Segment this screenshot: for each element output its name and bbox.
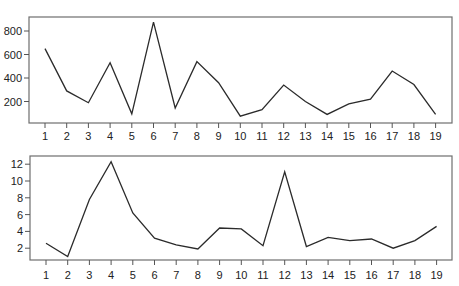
x-tick-label: 16 xyxy=(365,269,377,281)
x-tick-label: 9 xyxy=(217,269,223,281)
x-tick-label: 9 xyxy=(216,130,222,142)
x-tick-label: 4 xyxy=(108,269,114,281)
x-tick-label: 3 xyxy=(86,269,92,281)
x-tick-label: 11 xyxy=(256,130,267,142)
x-tick-label: 8 xyxy=(194,130,200,142)
x-tick-label: 15 xyxy=(344,269,356,281)
y-tick-label: 8 xyxy=(17,192,23,204)
y-tick-label: 4 xyxy=(17,225,23,237)
y-tick-label: 600 xyxy=(4,49,22,61)
x-tick-label: 2 xyxy=(65,269,71,281)
x-tick-label: 4 xyxy=(107,130,113,142)
y-tick-label: 800 xyxy=(4,25,22,37)
data-series-line xyxy=(46,162,437,257)
x-tick-label: 13 xyxy=(300,269,312,281)
x-tick-label: 11 xyxy=(257,269,268,281)
line-charts-svg: 2004006008001234567891011121314151617181… xyxy=(0,0,459,286)
x-tick-label: 2 xyxy=(64,130,70,142)
x-tick-label: 19 xyxy=(429,130,441,142)
plot-frame xyxy=(29,17,452,123)
x-tick-label: 12 xyxy=(279,269,291,281)
x-tick-label: 18 xyxy=(408,130,420,142)
y-tick-label: 12 xyxy=(11,158,23,170)
x-tick-label: 14 xyxy=(321,130,333,142)
x-tick-label: 6 xyxy=(151,269,157,281)
x-tick-label: 5 xyxy=(129,130,135,142)
x-tick-label: 12 xyxy=(278,130,290,142)
y-tick-label: 10 xyxy=(11,175,23,187)
x-tick-label: 1 xyxy=(43,269,49,281)
x-tick-label: 13 xyxy=(299,130,311,142)
x-tick-label: 17 xyxy=(387,269,399,281)
y-tick-label: 400 xyxy=(4,72,22,84)
y-tick-label: 2 xyxy=(17,242,23,254)
x-tick-label: 7 xyxy=(173,269,179,281)
x-tick-label: 8 xyxy=(195,269,201,281)
bottom-line-chart: 2468101212345678910111213141516171819 xyxy=(11,156,452,281)
x-tick-label: 10 xyxy=(234,130,246,142)
x-tick-label: 1 xyxy=(42,130,48,142)
chart-figure: 2004006008001234567891011121314151617181… xyxy=(0,0,459,286)
x-tick-label: 7 xyxy=(172,130,178,142)
x-tick-label: 6 xyxy=(150,130,156,142)
x-tick-label: 3 xyxy=(85,130,91,142)
x-tick-label: 15 xyxy=(343,130,355,142)
y-tick-label: 200 xyxy=(4,96,22,108)
x-tick-label: 10 xyxy=(235,269,247,281)
top-line-chart: 2004006008001234567891011121314151617181… xyxy=(4,17,452,142)
plot-frame xyxy=(30,156,452,260)
x-tick-label: 16 xyxy=(364,130,376,142)
x-tick-label: 17 xyxy=(386,130,398,142)
y-tick-label: 6 xyxy=(17,209,23,221)
data-series-line xyxy=(45,22,436,116)
x-tick-label: 18 xyxy=(409,269,421,281)
x-tick-label: 14 xyxy=(322,269,334,281)
x-tick-label: 5 xyxy=(130,269,136,281)
x-tick-label: 19 xyxy=(430,269,442,281)
